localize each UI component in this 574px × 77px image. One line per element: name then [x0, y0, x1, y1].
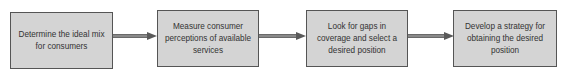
- arrow-right-icon: [113, 32, 157, 40]
- step-box-look-for-gaps: Look for gaps in coverage and select a d…: [306, 10, 408, 67]
- arrow-right-icon: [259, 32, 306, 40]
- arrow-right-icon: [408, 32, 454, 40]
- step-label: Develop a strategy for obtaining the des…: [458, 21, 552, 57]
- step-box-develop-strategy: Develop a strategy for obtaining the des…: [453, 10, 557, 67]
- step-label: Determine the ideal mix for consumers: [15, 29, 108, 53]
- step-label: Measure consumer perceptions of availabl…: [162, 21, 254, 57]
- step-box-measure-perceptions: Measure consumer perceptions of availabl…: [157, 10, 259, 67]
- step-label: Look for gaps in coverage and select a d…: [311, 21, 403, 57]
- step-box-determine-ideal-mix: Determine the ideal mix for consumers: [10, 12, 113, 69]
